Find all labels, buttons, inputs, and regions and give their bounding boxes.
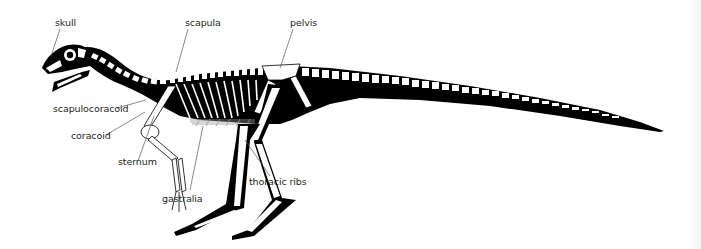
label-scapulocoracoid: scapulocoracoid — [53, 104, 128, 114]
label-skull: skull — [55, 18, 76, 28]
label-coracoid: coracoid — [71, 131, 111, 141]
body-silhouette — [42, 44, 664, 132]
label-scapula: scapula — [185, 18, 221, 28]
edge-shading — [687, 0, 701, 249]
label-pelvis: pelvis — [290, 18, 317, 28]
label-thoracic-ribs: thoracic ribs — [249, 177, 307, 187]
label-gastralia: gastralia — [162, 194, 202, 204]
skeleton-diagram — [0, 0, 701, 249]
hindlimb-far — [174, 124, 260, 236]
label-sternum: sternum — [118, 157, 157, 167]
